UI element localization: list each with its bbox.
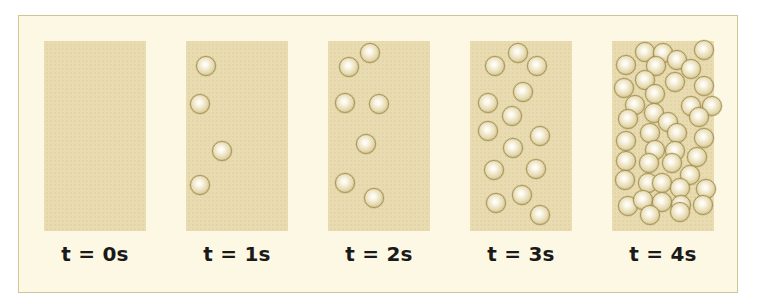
particle-icon xyxy=(670,202,690,222)
particle-icon xyxy=(665,72,685,92)
particle-icon xyxy=(508,43,528,63)
particle-icon xyxy=(478,93,498,113)
particle-icon xyxy=(212,141,232,161)
particle-icon xyxy=(196,56,216,76)
particle-icon xyxy=(369,94,389,114)
particle-icon xyxy=(662,153,682,173)
particle-icon xyxy=(339,57,359,77)
particle-icon xyxy=(640,205,660,225)
particle-icon xyxy=(527,56,547,76)
particle-icon xyxy=(694,128,714,148)
particle-icon xyxy=(485,56,505,76)
particle-icon xyxy=(639,153,659,173)
time-label: t = 2s xyxy=(308,241,450,267)
particle-icon xyxy=(616,55,636,75)
particle-icon xyxy=(618,109,638,129)
particle-icon xyxy=(190,175,210,195)
time-label: t = 3s xyxy=(450,241,592,267)
particle-icon xyxy=(687,147,707,167)
particle-icon xyxy=(356,134,376,154)
particle-icon xyxy=(689,107,709,127)
particle-icon xyxy=(360,43,380,63)
particle-icon xyxy=(512,185,532,205)
particle-icon xyxy=(616,151,636,171)
particle-icon xyxy=(335,173,355,193)
particle-icon xyxy=(530,126,550,146)
particle-icon xyxy=(530,205,550,225)
container-panel-1 xyxy=(186,41,288,231)
particle-icon xyxy=(645,84,665,104)
particle-icon xyxy=(486,193,506,213)
particle-icon xyxy=(694,76,714,96)
particle-icon xyxy=(335,93,355,113)
particle-icon xyxy=(484,160,504,180)
particle-icon xyxy=(693,195,713,215)
particle-icon xyxy=(503,138,523,158)
particle-icon xyxy=(190,94,210,114)
time-label: t = 1s xyxy=(166,241,308,267)
particle-icon xyxy=(478,121,498,141)
time-label: t = 4s xyxy=(592,241,734,267)
time-label: t = 0s xyxy=(24,241,166,267)
particle-icon xyxy=(526,159,546,179)
particle-icon xyxy=(615,170,635,190)
particle-icon xyxy=(513,82,533,102)
particle-icon xyxy=(616,131,636,151)
particle-icon xyxy=(667,123,687,143)
particle-icon xyxy=(502,106,522,126)
container-panel-3 xyxy=(470,41,572,231)
particle-icon xyxy=(364,188,384,208)
container-panel-0 xyxy=(44,41,146,231)
container-panel-4 xyxy=(612,41,714,231)
container-panel-2 xyxy=(328,41,430,231)
particle-icon xyxy=(694,40,714,60)
particle-icon xyxy=(681,59,701,79)
particle-icon xyxy=(652,173,672,193)
